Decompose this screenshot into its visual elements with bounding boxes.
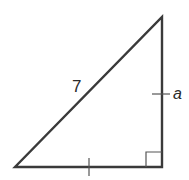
right-angle-marker bbox=[146, 152, 162, 167]
vertical-leg-label: a bbox=[173, 85, 182, 102]
hypotenuse-label: 7 bbox=[72, 77, 81, 96]
triangle-outline bbox=[15, 17, 162, 167]
right-triangle-diagram: 7 a bbox=[0, 0, 189, 180]
